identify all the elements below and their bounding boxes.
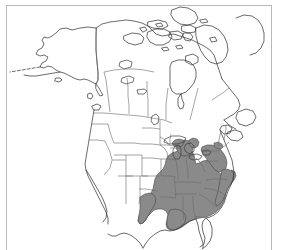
- southampton-island: [186, 54, 198, 65]
- florida-west-coast: [196, 219, 203, 248]
- border-bc-alberta: [104, 72, 110, 112]
- north-america-map: [0, 0, 281, 250]
- nova-scotia: [227, 130, 243, 141]
- border-nd-sd: [142, 128, 160, 129]
- border-alaska-yukon: [96, 28, 98, 84]
- greenland-edge: [236, 15, 264, 55]
- newfoundland: [236, 109, 256, 126]
- melville-island: [148, 20, 168, 29]
- great-bear-lake: [119, 60, 132, 69]
- vancouver-island: [92, 104, 101, 110]
- banks-island: [124, 33, 144, 45]
- border-or-ca: [89, 140, 105, 141]
- border-ontario-quebec: [190, 88, 198, 120]
- border-saskatchewan-manitoba: [147, 81, 148, 117]
- devon-island: [182, 25, 196, 33]
- border-ne-ks: [142, 158, 161, 159]
- alaska-panhandle: [96, 84, 103, 96]
- border-id-mt: [108, 124, 114, 143]
- border-wi-mi: [170, 134, 171, 144]
- border-ne-ia: [160, 145, 168, 158]
- aleutian-islands: [10, 67, 40, 72]
- border-ca-nv-line: [104, 141, 112, 175]
- range-shading-layer: [138, 138, 236, 230]
- ellesmere-island: [171, 7, 198, 25]
- figure-canvas: Shaded distribution across the eastern a…: [0, 0, 281, 250]
- queen-charlotte-islands: [88, 93, 93, 99]
- border-sd-ne: [142, 144, 160, 145]
- border-mn-ia: [160, 145, 174, 146]
- lake-winnipeg: [151, 114, 159, 125]
- lake-athabasca: [137, 89, 147, 94]
- james-bay: [178, 94, 184, 109]
- border-mt-wy: [114, 143, 142, 144]
- alaska-peninsula: [24, 72, 60, 76]
- us-pacific-coast: [85, 110, 108, 224]
- texas-rio-grande: [108, 233, 143, 248]
- alaska-outline: [36, 27, 98, 84]
- border-manitoba-ontario: [166, 88, 168, 120]
- victoria-island: [147, 29, 172, 45]
- kodiak-island: [55, 78, 62, 82]
- arctic-islets-group: [140, 19, 217, 51]
- border-quebec-labrador: [212, 88, 229, 100]
- border-territories-north: [104, 69, 154, 72]
- border-me-nh: [224, 125, 226, 140]
